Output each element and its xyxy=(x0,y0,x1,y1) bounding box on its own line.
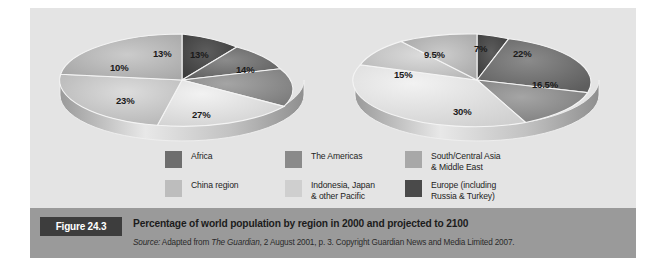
pie-chart-2100-svg xyxy=(335,16,618,144)
legend-item-china-region: China region xyxy=(165,179,239,200)
legend-swatch-indonesia-japan-pacific xyxy=(285,180,302,197)
figure-caption-bar: Figure 24.3 Percentage of world populati… xyxy=(30,208,636,258)
source-text-2: , 2 August 2001, p. 3. Copyright Guardia… xyxy=(260,238,515,247)
pie-label-2000-0: 13% xyxy=(153,48,171,59)
legend-swatch-china-region xyxy=(165,180,182,197)
source-publication: The Guardian xyxy=(211,238,259,247)
figure-source: Source: Adapted from The Guardian, 2 Aug… xyxy=(133,238,514,247)
legend-label-africa: Africa xyxy=(191,150,212,162)
legend-item-indonesia-japan-pacific: Indonesia, Japan & other Pacific xyxy=(285,179,375,200)
pie-chart-2000: 13% 13% 14% 27% 23% 10% xyxy=(40,16,323,144)
pie-label-2000-2: 14% xyxy=(236,64,254,75)
pie-label-2100-0: 7% xyxy=(474,43,487,54)
pie-label-2000-4: 23% xyxy=(116,95,134,106)
legend-column-2: The Americas Indonesia, Japan & other Pa… xyxy=(285,150,375,208)
pie-label-2000-1: 13% xyxy=(190,49,208,60)
pie-label-2100-3: 30% xyxy=(453,106,471,117)
pie-label-2100-5: 9.5% xyxy=(424,49,445,60)
pie-label-2100-2: 16.5% xyxy=(532,79,558,90)
legend-swatch-south-central-asia xyxy=(405,151,422,168)
legend-label-americas: The Americas xyxy=(311,150,362,162)
legend-item-europe: Europe (including Russia & Turkey) xyxy=(405,179,500,200)
legend-item-africa: Africa xyxy=(165,150,239,171)
chart-legend: Africa China region The Americas Indones… xyxy=(30,150,636,208)
charts-area: 13% 13% 14% 27% 23% 10% xyxy=(30,8,636,146)
legend-column-1: Africa China region xyxy=(165,150,239,208)
figure-number-badge: Figure 24.3 xyxy=(40,217,122,236)
pie-label-2000-3: 27% xyxy=(192,109,210,120)
figure-panel: 13% 13% 14% 27% 23% 10% xyxy=(30,8,636,258)
pie-label-2100-4: 15% xyxy=(394,69,412,80)
legend-swatch-africa xyxy=(165,151,182,168)
legend-item-americas: The Americas xyxy=(285,150,375,171)
figure-title: Percentage of world population by region… xyxy=(133,218,468,229)
pie-label-2100-1: 22% xyxy=(513,48,531,59)
figure-container: 13% 13% 14% 27% 23% 10% xyxy=(0,0,667,271)
legend-label-china-region: China region xyxy=(191,179,239,191)
pie-chart-2000-svg xyxy=(40,16,323,144)
legend-swatch-europe xyxy=(405,180,422,197)
legend-column-3: South/Central Asia & Middle East Europe … xyxy=(405,150,500,208)
legend-label-indonesia-japan-pacific: Indonesia, Japan & other Pacific xyxy=(311,179,375,201)
legend-swatch-americas xyxy=(285,151,302,168)
source-text-1: Adapted from xyxy=(160,238,211,247)
pie-chart-2100: 7% 22% 16.5% 30% 15% 9.5% xyxy=(335,16,618,144)
legend-item-south-central-asia: South/Central Asia & Middle East xyxy=(405,150,500,171)
source-prefix: Source: xyxy=(133,238,160,247)
pie-label-2000-5: 10% xyxy=(110,62,128,73)
legend-label-south-central-asia: South/Central Asia & Middle East xyxy=(431,150,500,172)
legend-label-europe: Europe (including Russia & Turkey) xyxy=(431,179,496,201)
